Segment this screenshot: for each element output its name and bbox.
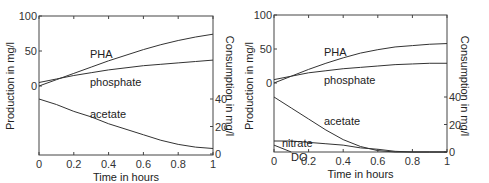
y-left-tick-label: 0	[31, 80, 37, 92]
y-right-axis-label: Consumption in mg/l	[459, 36, 471, 136]
y-left-tick-label: 100	[254, 9, 272, 21]
y-left-tick-label: 0	[266, 77, 272, 89]
y-left-tick-label: 50	[25, 45, 37, 57]
y-left-tick-label: 50	[260, 43, 272, 55]
x-tick-label: 0.4	[336, 155, 351, 167]
series-pha-label: PHA	[324, 46, 347, 58]
series-acetate-line	[39, 99, 213, 149]
x-tick-label: 0.2	[66, 158, 81, 170]
series-phosphate-label: phosphate	[324, 74, 375, 86]
x-tick-label: 0	[36, 158, 42, 170]
x-tick-label: 0.6	[370, 155, 385, 167]
x-tick-label: 0.6	[136, 158, 151, 170]
x-tick-label: 0.8	[405, 155, 420, 167]
series-acetate-label: acetate	[90, 108, 126, 120]
series-phosphate-label: phosphate	[90, 76, 141, 88]
y-right-tick-label: 0	[449, 146, 455, 158]
y-right-tick-label: 0	[215, 148, 221, 160]
series-pha-label: PHA	[90, 48, 113, 60]
x-tick-label: 0.8	[171, 158, 186, 170]
chart-panel-1: 00.20.40.60.8105010002040PHAphosphateace…	[4, 10, 236, 183]
series-nitrate-label: nitrate	[282, 137, 313, 149]
x-axis-label: Time in hours	[327, 168, 394, 180]
y-right-axis-label: Consumption in mg/l	[224, 36, 236, 136]
chart-panel-2: 00.20.40.60.8105010002040PHAphosphateace…	[243, 9, 471, 180]
y-left-axis-label: Production in mg/l	[243, 42, 255, 130]
y-left-tick-label: 100	[19, 10, 37, 22]
y-left-axis-label: Production in mg/l	[4, 42, 16, 130]
x-axis-label: Time in hours	[93, 171, 160, 183]
figure: 00.20.40.60.8105010002040PHAphosphateace…	[0, 0, 489, 183]
series-do-label: DO	[291, 151, 308, 163]
x-tick-label: 0	[271, 155, 277, 167]
x-tick-label: 0.4	[101, 158, 116, 170]
series-acetate-label: acetate	[324, 115, 360, 127]
